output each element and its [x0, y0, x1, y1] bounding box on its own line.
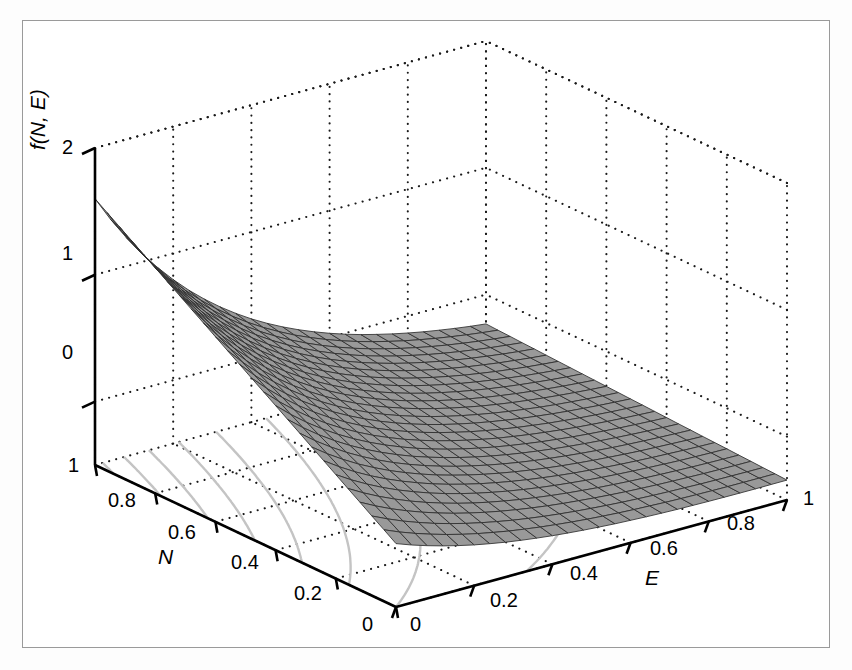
- xaxis-label: E: [645, 566, 659, 590]
- yaxis-tick-label: 0: [362, 613, 373, 636]
- yaxis-label: N: [158, 545, 173, 569]
- zaxis-tick-label: 1: [62, 242, 73, 265]
- xaxis-tick-label: 1: [803, 487, 814, 510]
- zaxis-label: f(N, E): [26, 89, 50, 150]
- yaxis-tick-label: 0.2: [294, 582, 322, 605]
- zaxis-tick-label: 2: [62, 136, 73, 159]
- yaxis-tick-label: 0.4: [231, 551, 259, 574]
- yaxis-tick-label: 0.6: [168, 521, 196, 544]
- xaxis-tick-label: 0.6: [650, 537, 678, 560]
- figure-container: f(N, E) N E 21010.80.60.40.2000.20.40.60…: [0, 0, 852, 670]
- yaxis-tick-label: 1: [68, 454, 79, 477]
- xaxis-tick-label: 0: [410, 613, 421, 636]
- xaxis-tick-label: 0.4: [570, 562, 598, 585]
- xaxis-tick-label: 0.2: [490, 589, 518, 612]
- zaxis-tick-label: 0: [62, 341, 73, 364]
- yaxis-tick-label: 0.8: [108, 489, 136, 512]
- surface-mesh: [95, 199, 787, 546]
- surface-plot-canvas: [0, 0, 852, 670]
- xaxis-tick-label: 0.8: [727, 512, 755, 535]
